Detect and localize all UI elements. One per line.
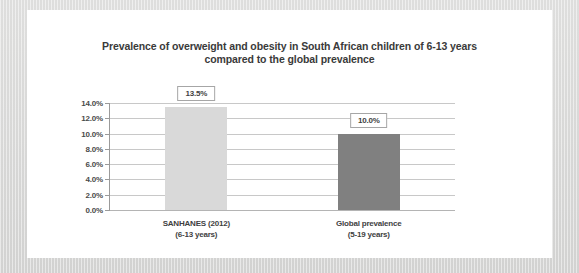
x-axis-category-label-line: (5-19 years) bbox=[336, 230, 402, 241]
x-axis-category-label-line: (6-13 years) bbox=[163, 230, 230, 241]
gridline bbox=[110, 103, 455, 104]
gridline bbox=[110, 195, 455, 196]
y-axis-tick bbox=[105, 195, 110, 196]
bar bbox=[165, 107, 227, 210]
y-axis-tick-label: 4.0% bbox=[59, 175, 103, 184]
x-axis-category-label: Global prevalence(5-19 years) bbox=[336, 219, 402, 240]
y-axis-tick-label: 10.0% bbox=[59, 129, 103, 138]
gridline bbox=[110, 149, 455, 150]
y-axis-tick-label: 8.0% bbox=[59, 144, 103, 153]
y-axis-tick bbox=[105, 164, 110, 165]
chart-card: Prevalence of overweight and obesity in … bbox=[27, 10, 552, 258]
y-axis-tick-label: 14.0% bbox=[59, 99, 103, 108]
x-axis-category-label: SANHANES (2012)(6-13 years) bbox=[163, 219, 230, 240]
image-frame: Prevalence of overweight and obesity in … bbox=[0, 0, 579, 273]
y-axis-tick bbox=[105, 210, 110, 211]
y-axis-tick-label: 12.0% bbox=[59, 114, 103, 123]
bar bbox=[338, 134, 400, 210]
plot-area bbox=[110, 103, 455, 210]
y-axis-tick-label: 6.0% bbox=[59, 160, 103, 169]
gridline bbox=[110, 179, 455, 180]
data-label: 13.5% bbox=[177, 86, 215, 101]
gridline bbox=[110, 164, 455, 165]
bar-chart: 14.0%12.0%10.0%8.0%6.0%4.0%2.0%0.0% 13.5… bbox=[27, 10, 552, 258]
x-axis-category-label-line: Global prevalence bbox=[336, 219, 402, 230]
y-axis-tick bbox=[105, 149, 110, 150]
x-axis-category-label-line: SANHANES (2012) bbox=[163, 219, 230, 230]
y-axis-tick bbox=[105, 103, 110, 104]
y-axis-tick-label: 2.0% bbox=[59, 190, 103, 199]
y-axis-tick bbox=[105, 179, 110, 180]
data-label: 10.0% bbox=[350, 113, 388, 128]
gridline bbox=[110, 134, 455, 135]
gridline bbox=[110, 118, 455, 119]
y-axis-tick-label: 0.0% bbox=[59, 206, 103, 215]
y-axis-tick bbox=[105, 118, 110, 119]
y-axis-tick bbox=[105, 134, 110, 135]
gridline bbox=[110, 210, 455, 211]
y-axis-labels: 14.0%12.0%10.0%8.0%6.0%4.0%2.0%0.0% bbox=[53, 10, 103, 258]
